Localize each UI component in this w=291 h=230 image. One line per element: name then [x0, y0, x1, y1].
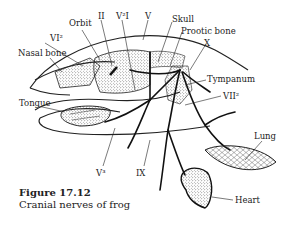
- label-nerve-VII2: VII²: [222, 91, 239, 101]
- label-nasal-bone: Nasal bone: [18, 48, 66, 58]
- lung: [205, 146, 276, 170]
- label-nerve-II: II: [98, 11, 105, 21]
- label-nerve-V3: V³: [95, 168, 106, 178]
- label-nerve-IX: IX: [136, 168, 146, 178]
- tongue: [61, 106, 110, 126]
- label-orbit: Orbit: [69, 18, 92, 28]
- figure-description: Cranial nerves of frog: [19, 199, 130, 211]
- label-lung: Lung: [254, 131, 277, 141]
- label-skull: Skull: [172, 14, 194, 24]
- label-prootic-bone: Prootic bone: [181, 26, 236, 36]
- label-nerve-V: V: [144, 11, 152, 21]
- label-tympanum: Tympanum: [207, 74, 255, 84]
- label-heart: Heart: [235, 195, 261, 205]
- label-nerve-VI2: VI²: [49, 33, 63, 43]
- label-nerve-V2I: V²I: [115, 11, 129, 21]
- label-nerve-X: X: [204, 38, 211, 48]
- heart: [181, 168, 211, 208]
- label-tongue: Tongue: [19, 98, 51, 108]
- figure-caption: Figure 17.12 Cranial nerves of frog: [19, 187, 130, 211]
- skull-region: [150, 51, 185, 68]
- figure-number: Figure 17.12: [19, 187, 130, 199]
